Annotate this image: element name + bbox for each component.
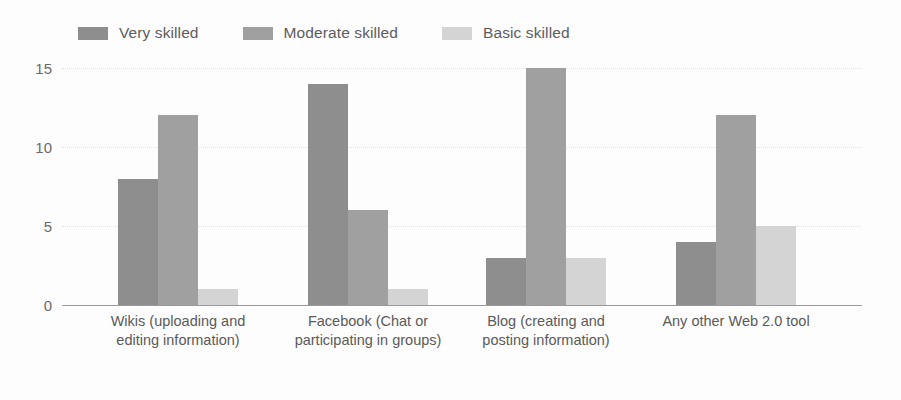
bar [308, 84, 348, 305]
legend-label: Very skilled [119, 24, 199, 42]
y-axis-tick-label: 15 [6, 59, 52, 76]
bar [158, 115, 198, 305]
legend-label: Moderate skilled [284, 24, 398, 42]
y-axis-tick-label: 5 [6, 217, 52, 234]
legend-swatch-icon [442, 27, 472, 40]
bar [486, 258, 526, 305]
bar [526, 68, 566, 305]
legend-label: Basic skilled [483, 24, 570, 42]
bar [756, 226, 796, 305]
bar [716, 115, 756, 305]
bar-group [118, 52, 238, 305]
legend-item: Moderate skilled [243, 24, 398, 42]
y-axis: 051015 [0, 0, 52, 400]
legend-swatch-icon [78, 27, 108, 40]
bar [676, 242, 716, 305]
x-axis-category-label: Wikis (uploading and editing information… [92, 312, 264, 350]
x-axis-category-label: Facebook (Chat or participating in group… [287, 312, 449, 350]
bar [118, 179, 158, 306]
x-axis-line [62, 305, 862, 306]
x-axis-labels: Wikis (uploading and editing information… [62, 312, 862, 392]
y-axis-tick-label: 10 [6, 138, 52, 155]
bar [348, 210, 388, 305]
y-axis-tick-label: 0 [6, 297, 52, 314]
bar-group [486, 52, 606, 305]
bar-chart-figure: Very skilledModerate skilledBasic skille… [0, 0, 901, 400]
chart-legend: Very skilledModerate skilledBasic skille… [78, 22, 570, 44]
legend-item: Very skilled [78, 24, 199, 42]
legend-item: Basic skilled [442, 24, 570, 42]
x-axis-category-label: Any other Web 2.0 tool [656, 312, 816, 331]
x-axis-category-label: Blog (creating and posting information) [462, 312, 630, 350]
bar-group [308, 52, 428, 305]
bar [388, 289, 428, 305]
plot-area [62, 52, 860, 305]
legend-swatch-icon [243, 27, 273, 40]
bar [198, 289, 238, 305]
bar [566, 258, 606, 305]
bar-group [676, 52, 796, 305]
